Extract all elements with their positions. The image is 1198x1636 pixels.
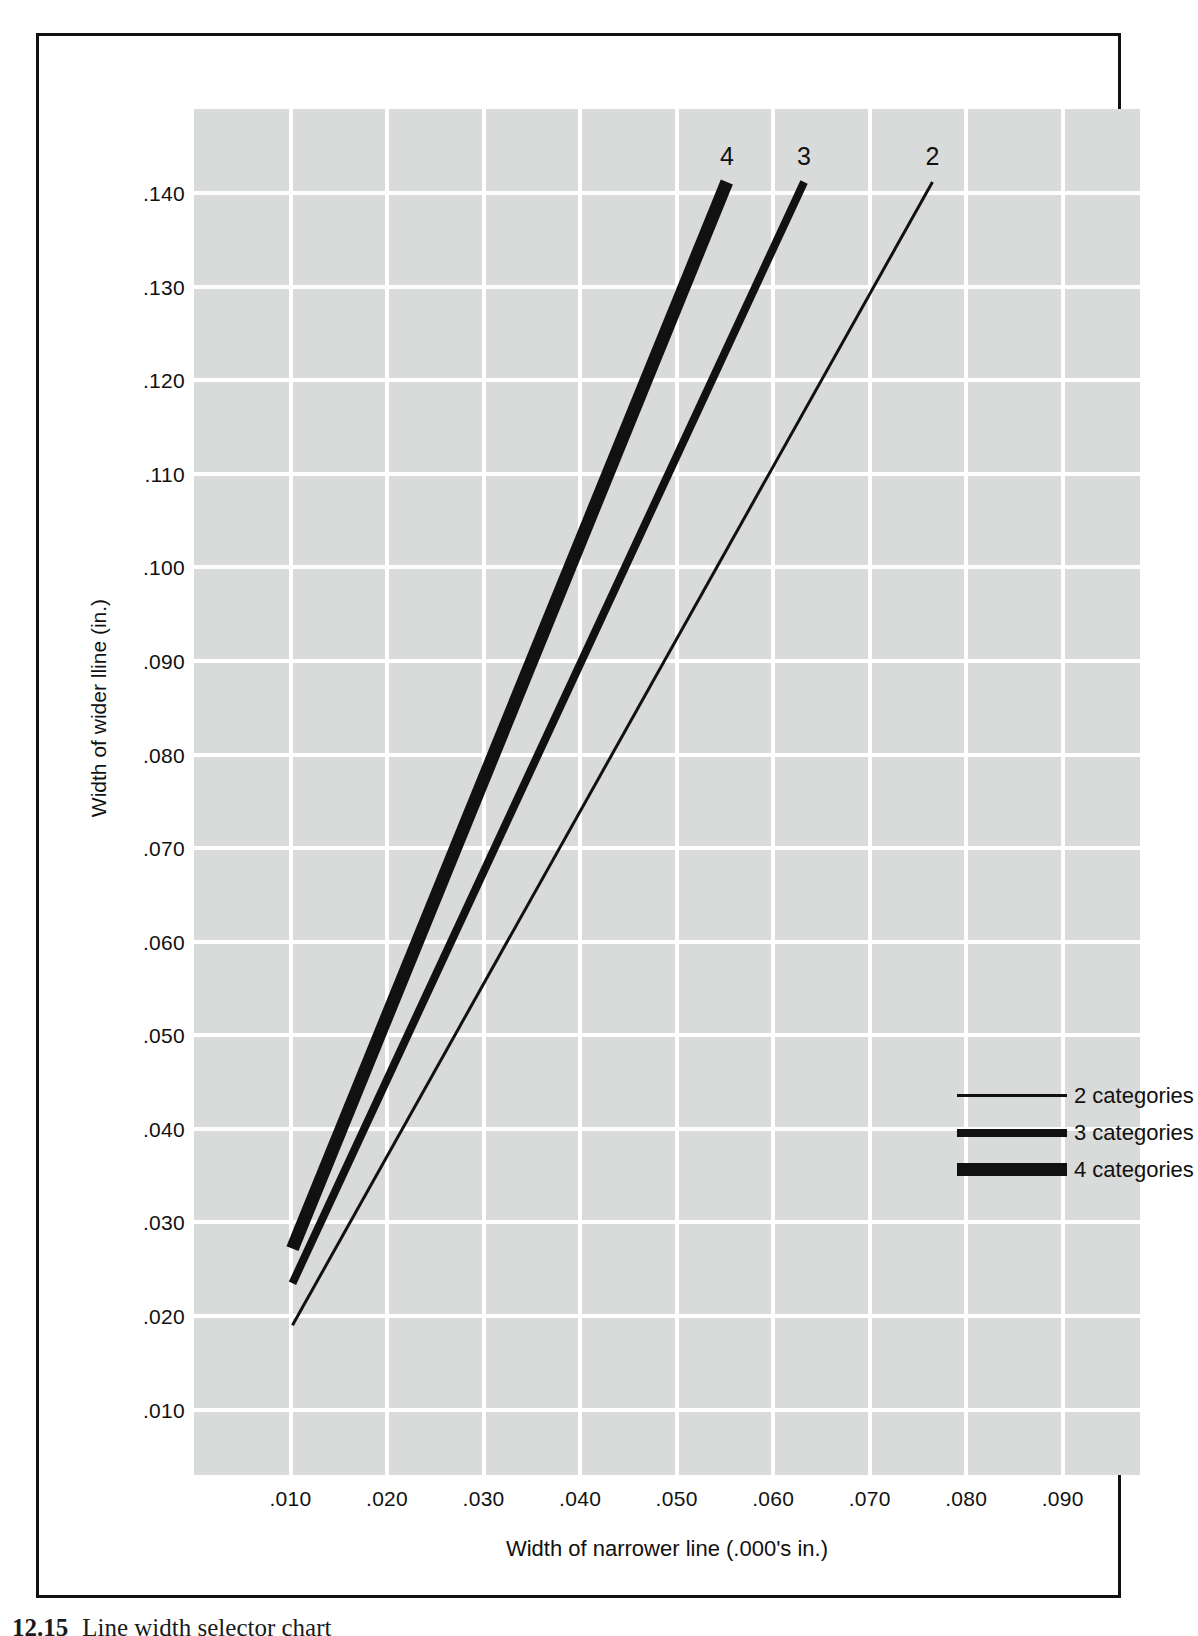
x-axis-tick-label: .020 [342, 1488, 432, 1509]
x-axis-tick-label: .080 [921, 1488, 1011, 1509]
data-line-2 [292, 182, 932, 1325]
data-series-layer [194, 109, 1140, 1475]
y-axis-tick-label: .070 [105, 838, 185, 859]
x-axis-tick-label: .070 [825, 1488, 915, 1509]
legend-item: 3 categories [956, 1114, 1198, 1151]
series-end-label-4: 4 [712, 144, 742, 169]
series-end-label-3: 3 [789, 144, 819, 169]
x-axis-tick-label: .010 [246, 1488, 336, 1509]
x-axis-tick-labels: .010.020.030.040.050.060.070.080.090 [194, 1488, 1140, 1522]
legend-swatch-4-categories [956, 1163, 1068, 1176]
legend-label-2-categories: 2 categories [1068, 1083, 1194, 1109]
series-end-label-2: 2 [917, 144, 947, 169]
legend: 2 categories 3 categories 4 categories [956, 1077, 1198, 1188]
y-axis-tick-label: .110 [105, 464, 185, 485]
y-axis-tick-label: .010 [105, 1400, 185, 1421]
x-axis-tick-label: .050 [632, 1488, 722, 1509]
legend-swatch-3-categories [956, 1129, 1068, 1137]
x-axis-tick-label: .040 [535, 1488, 625, 1509]
y-axis-tick-label: .030 [105, 1212, 185, 1233]
legend-item: 4 categories [956, 1151, 1198, 1188]
y-axis-tick-labels: .010.020.030.040.050.060.070.080.090.100… [97, 109, 185, 1475]
y-axis-tick-label: .090 [105, 651, 185, 672]
x-axis-tick-label: .060 [728, 1488, 818, 1509]
plot-area: 234 2 categories 3 categories 4 categori… [194, 109, 1140, 1475]
y-axis-tick-label: .100 [105, 557, 185, 578]
y-axis-tick-label: .040 [105, 1119, 185, 1140]
y-axis-tick-label: .080 [105, 745, 185, 766]
figure-caption-number: 12.15 [12, 1614, 68, 1636]
figure-frame: Width of wider lline (in.) .010.020.030.… [36, 33, 1121, 1598]
x-axis-tick-label: .090 [1018, 1488, 1108, 1509]
y-axis-tick-label: .050 [105, 1025, 185, 1046]
legend-label-4-categories: 4 categories [1068, 1157, 1194, 1183]
figure-caption-text: Line width selector chart [68, 1614, 331, 1636]
legend-label-3-categories: 3 categories [1068, 1120, 1194, 1146]
x-axis-tick-label: .030 [439, 1488, 529, 1509]
y-axis-tick-label: .060 [105, 932, 185, 953]
data-line-4 [292, 182, 726, 1249]
y-axis-tick-label: .120 [105, 370, 185, 391]
x-axis-title: Width of narrower line (.000's in.) [194, 1536, 1140, 1562]
legend-swatch-2-categories [956, 1094, 1068, 1097]
data-line-3 [292, 182, 804, 1283]
figure-caption: 12.15Line width selector chart [12, 1614, 912, 1636]
y-axis-tick-label: .130 [105, 277, 185, 298]
y-axis-tick-label: .140 [105, 183, 185, 204]
legend-item: 2 categories [956, 1077, 1198, 1114]
y-axis-tick-label: .020 [105, 1306, 185, 1327]
